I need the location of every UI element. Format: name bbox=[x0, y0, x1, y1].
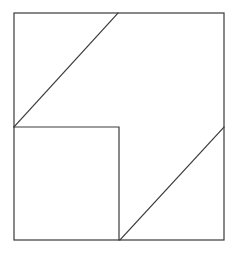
dissection-diagram bbox=[0, 0, 238, 254]
upper-diagonal-line bbox=[14, 13, 118, 127]
lower-diagonal-line bbox=[120, 127, 224, 240]
inner-square bbox=[14, 127, 119, 240]
